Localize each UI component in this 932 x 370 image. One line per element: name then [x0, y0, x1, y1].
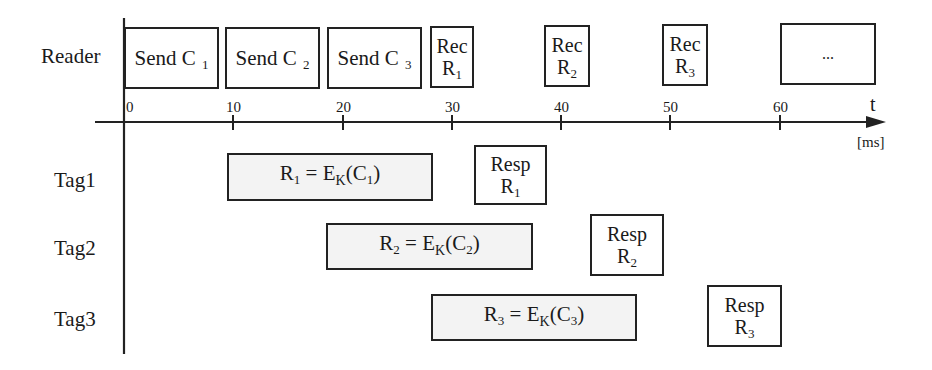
- time-axis-label: t: [870, 93, 876, 116]
- reader-block-rec-r2: Rec R2: [544, 25, 590, 87]
- row-label-tag1: Tag1: [54, 168, 96, 193]
- tick-label-60: 60: [773, 99, 788, 116]
- reader-block-send-c1: Send C1: [124, 27, 219, 89]
- tag2-compute-block: R2 = EK(C2): [326, 223, 533, 270]
- tick-label-30: 30: [445, 99, 460, 116]
- row-label-tag2: Tag2: [54, 236, 96, 261]
- reader-block-send-c3: Send C3: [327, 27, 422, 89]
- tag1-response-block: Resp R1: [474, 145, 547, 205]
- reader-block-send-c2: Send C2: [225, 27, 320, 89]
- row-label-tag3: Tag3: [54, 307, 96, 332]
- reader-block-rec-r3: Rec R3: [662, 24, 708, 86]
- tag3-response-block: Resp R3: [707, 285, 782, 347]
- time-unit-label: [ms]: [857, 134, 885, 151]
- tick-label-40: 40: [554, 99, 569, 116]
- tick-label-20: 20: [336, 99, 351, 116]
- reader-block-continuation: ...: [780, 23, 876, 85]
- tag1-compute-block: R1 = EK(C1): [227, 153, 433, 201]
- time-axis-arrow-icon: [866, 116, 886, 128]
- tick-label-10: 10: [226, 99, 241, 116]
- tag2-response-block: Resp R2: [590, 214, 664, 276]
- tick-label-0: 0: [126, 99, 134, 116]
- tick-label-50: 50: [663, 99, 678, 116]
- reader-block-rec-r1: Rec R1: [430, 26, 474, 88]
- row-label-reader: Reader: [41, 44, 100, 69]
- tag3-compute-block: R3 = EK(C3): [431, 294, 637, 341]
